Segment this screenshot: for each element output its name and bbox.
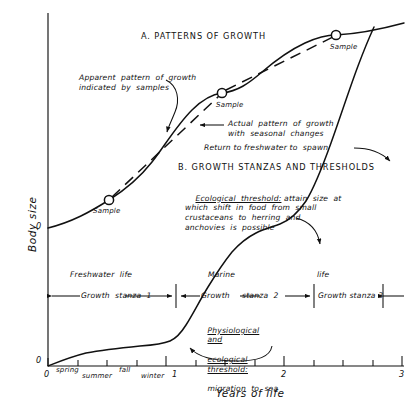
x-tick-spring: spring — [56, 366, 79, 375]
sample-marker-3 — [331, 30, 340, 39]
physiological-word: Physiological — [207, 326, 259, 335]
sample-label-2: Sample — [216, 101, 243, 110]
x-tick-year-1: 1 — [172, 369, 177, 380]
physiological-and-word: and — [207, 335, 222, 344]
x-tick-winter: winter — [141, 372, 164, 381]
return-to-spawn-leader — [354, 148, 390, 161]
migration-to-sea-text: migration to sea — [207, 384, 278, 393]
ecological-word: ecological — [207, 355, 247, 364]
physiological-threshold-annotation: Physiological and ecological threshold: … — [197, 316, 278, 403]
stanza-label-2b: stanza 2 — [242, 291, 279, 301]
x-tick-year-2: 2 — [281, 369, 286, 380]
stanza-label-3: Growth stanza 3 — [318, 291, 383, 301]
threshold-word: threshold: — [207, 365, 248, 374]
sample-marker-1 — [104, 195, 113, 204]
x-tick-year-3: 3 — [399, 369, 404, 380]
ecological-threshold-heading: Ecological threshold: — [195, 194, 281, 203]
life-stage-life: life — [317, 270, 329, 280]
x-axis-origin-label: 0 — [44, 369, 49, 380]
sample-markers — [104, 30, 340, 204]
life-stage-marine: Marine — [208, 270, 235, 280]
x-tick-fall: fall — [119, 366, 130, 375]
sample-label-1: Sample — [93, 207, 120, 216]
x-tick-summer: summer — [82, 372, 112, 381]
sample-marker-2 — [217, 88, 226, 97]
actual-pattern-annotation: Actual pattern of growth with seasonal c… — [228, 119, 334, 138]
y-axis-origin-lower: 0 — [36, 355, 41, 366]
sample-label-3: Sample — [330, 43, 357, 52]
section-a-title: A. PATTERNS OF GROWTH — [141, 31, 266, 42]
section-b-title: B. GROWTH STANZAS AND THRESHOLDS — [178, 162, 375, 173]
apparent-pattern-annotation: Apparent pattern of growth indicated by … — [79, 73, 196, 92]
life-stage-freshwater: Freshwater life — [70, 270, 132, 280]
y-axis-origin-upper: 0 — [36, 221, 41, 232]
apparent-growth-dashed-line — [112, 37, 333, 197]
ecological-threshold-annotation: Ecological threshold: attain size at whi… — [185, 184, 341, 242]
stanza-label-2a: Growth — [201, 291, 230, 301]
growth-patterns-figure: Body size 0 0 0 spring summer fall winte… — [0, 0, 419, 413]
stanza-label-1: Growth stanza 1 — [81, 291, 152, 301]
return-to-spawn-annotation: Return to freshwater to spawn — [204, 143, 328, 153]
